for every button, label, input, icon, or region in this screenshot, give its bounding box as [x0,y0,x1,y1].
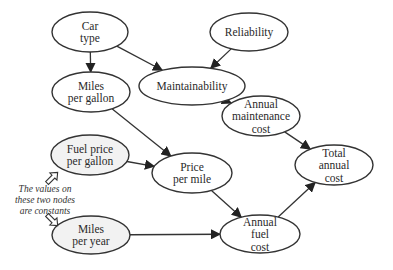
edge-annual-maintenance-cost-to-total-annual-cost [285,132,311,149]
node-label: per gallon [68,92,115,105]
edge-miles-per-year-to-annual-fuel-cost [130,234,220,235]
nodes-layer: CartypeReliabilityMaintainabilityMilespe… [51,12,373,254]
node-label: per year [72,235,110,248]
node-label: Miles [78,223,105,235]
node-total-annual-cost: Totalannualcost [295,145,373,185]
node-label: cost [251,241,270,253]
node-miles-per-gallon: Milesper gallon [52,72,130,112]
node-label: maintenance [232,110,290,122]
node-label: Price [180,161,204,173]
node-label: cost [252,123,271,135]
annotation-line-1: The values on [19,184,72,194]
node-label: annual [319,159,350,171]
node-label: type [80,32,100,45]
edge-car-type-to-maintainability [117,46,162,70]
node-label: Fuel price [67,143,113,156]
node-annual-maintenance-cost: Annualmaintenancecost [222,96,300,136]
edge-price-per-mile-to-annual-fuel-cost [211,190,241,217]
annotation-line-2: these two nodes [15,195,75,205]
node-car-type: Cartype [52,12,128,52]
node-reliability: Reliability [210,13,288,51]
node-label: Annual [243,216,277,228]
node-annual-fuel-cost: Annualfuelcost [220,215,300,253]
node-label: Reliability [225,26,274,39]
node-price-per-mile: Priceper mile [152,153,232,193]
edge-fuel-price-per-gallon-to-price-per-mile [127,162,154,167]
node-label: per mile [173,173,211,186]
node-label: Maintainability [157,80,228,93]
node-label: cost [325,172,344,184]
node-label: Miles [78,80,105,92]
node-fuel-price-per-gallon: Fuel priceper gallon [51,135,129,175]
node-label: Car [82,20,99,32]
node-label: Total [322,147,345,159]
edge-reliability-to-maintainability [211,49,231,68]
influence-diagram: CartypeReliabilityMaintainabilityMilespe… [0,0,393,270]
node-label: fuel [251,228,269,240]
edge-annual-fuel-cost-to-total-annual-cost [278,183,315,218]
annotation-line-3: are constants [20,206,71,216]
node-maintainability: Maintainability [139,67,245,105]
node-label: per gallon [67,155,114,168]
node-miles-per-year: Milesper year [52,216,130,254]
node-label: Annual [244,98,278,110]
